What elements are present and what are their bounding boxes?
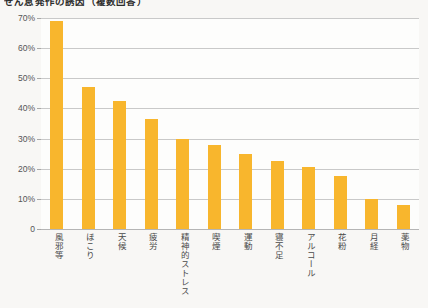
- y-tick-label: 0: [1, 224, 35, 234]
- gridline: [41, 169, 419, 170]
- x-tick-label: 薬物: [399, 233, 409, 251]
- y-tick-mark: [37, 229, 41, 230]
- y-tick-label: 30%: [1, 134, 35, 144]
- plot-area: [41, 18, 419, 229]
- bar: [365, 199, 378, 229]
- y-axis-labels: 010%20%30%40%50%60%70%: [0, 0, 35, 308]
- chart-title: ぜん息発作の誘因（複数回答）: [4, 0, 304, 6]
- x-tick-label: 運動: [241, 233, 251, 251]
- y-tick-mark: [37, 108, 41, 109]
- bar: [50, 21, 63, 229]
- x-tick-label: 寝不足: [273, 233, 283, 260]
- bar: [397, 205, 410, 229]
- y-tick-mark: [37, 199, 41, 200]
- bar: [145, 119, 158, 229]
- x-tick-label: 疲労: [147, 233, 157, 251]
- chart-figure: ぜん息発作の誘因（複数回答） 010%20%30%40%50%60%70% 風邪…: [0, 0, 428, 308]
- bar: [82, 87, 95, 229]
- y-tick-mark: [37, 139, 41, 140]
- bar: [334, 176, 347, 229]
- bar: [208, 145, 221, 229]
- x-tick-label: 花粉: [336, 233, 346, 251]
- x-tick-label: ほこり: [84, 233, 94, 260]
- y-tick-mark: [37, 169, 41, 170]
- bar: [239, 154, 252, 229]
- gridline: [41, 78, 419, 79]
- y-tick-label: 40%: [1, 103, 35, 113]
- y-tick-label: 50%: [1, 73, 35, 83]
- bar: [113, 101, 126, 229]
- y-tick-mark: [37, 18, 41, 19]
- bar: [271, 161, 284, 229]
- gridline: [41, 199, 419, 200]
- bar: [176, 139, 189, 229]
- x-tick-label: 風邪等: [52, 233, 62, 260]
- x-tick-label: 月経: [367, 233, 377, 251]
- x-tick-label: 天候: [115, 233, 125, 251]
- x-tick-label: 精神的ストレス: [178, 233, 188, 296]
- gridline: [41, 139, 419, 140]
- y-tick-label: 10%: [1, 194, 35, 204]
- gridline: [41, 229, 419, 230]
- y-tick-mark: [37, 78, 41, 79]
- x-tick-label: アルコール: [304, 233, 314, 278]
- y-tick-label: 60%: [1, 43, 35, 53]
- y-tick-label: 70%: [1, 13, 35, 23]
- gridline: [41, 18, 419, 19]
- gridline: [41, 108, 419, 109]
- x-tick-label: 喫煙: [210, 233, 220, 251]
- bar: [302, 167, 315, 229]
- y-tick-label: 20%: [1, 164, 35, 174]
- y-tick-mark: [37, 48, 41, 49]
- gridline: [41, 48, 419, 49]
